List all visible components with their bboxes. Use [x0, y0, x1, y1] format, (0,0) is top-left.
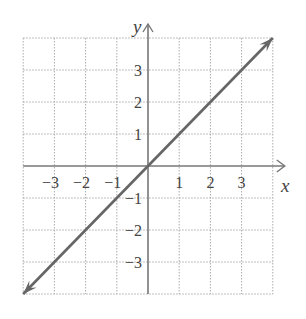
y-tick-label: 2	[134, 94, 142, 111]
x-tick-label: 1	[175, 174, 183, 191]
x-tick-label: 2	[206, 174, 214, 191]
y-tick-label: 3	[134, 62, 142, 79]
y-tick-label: −1	[125, 190, 142, 207]
coordinate-plane: −3−2−1123−3−2−1123 x y	[0, 0, 306, 319]
x-tick-label: −2	[73, 174, 90, 191]
x-tick-label: 3	[238, 174, 246, 191]
x-axis-label: x	[280, 175, 290, 196]
x-tick-label: −3	[42, 174, 59, 191]
y-tick-label: −2	[125, 222, 142, 239]
y-tick-label: −3	[125, 254, 142, 271]
y-tick-label: 1	[134, 126, 142, 143]
x-tick-label: −1	[104, 174, 121, 191]
y-axis-label: y	[131, 16, 142, 37]
